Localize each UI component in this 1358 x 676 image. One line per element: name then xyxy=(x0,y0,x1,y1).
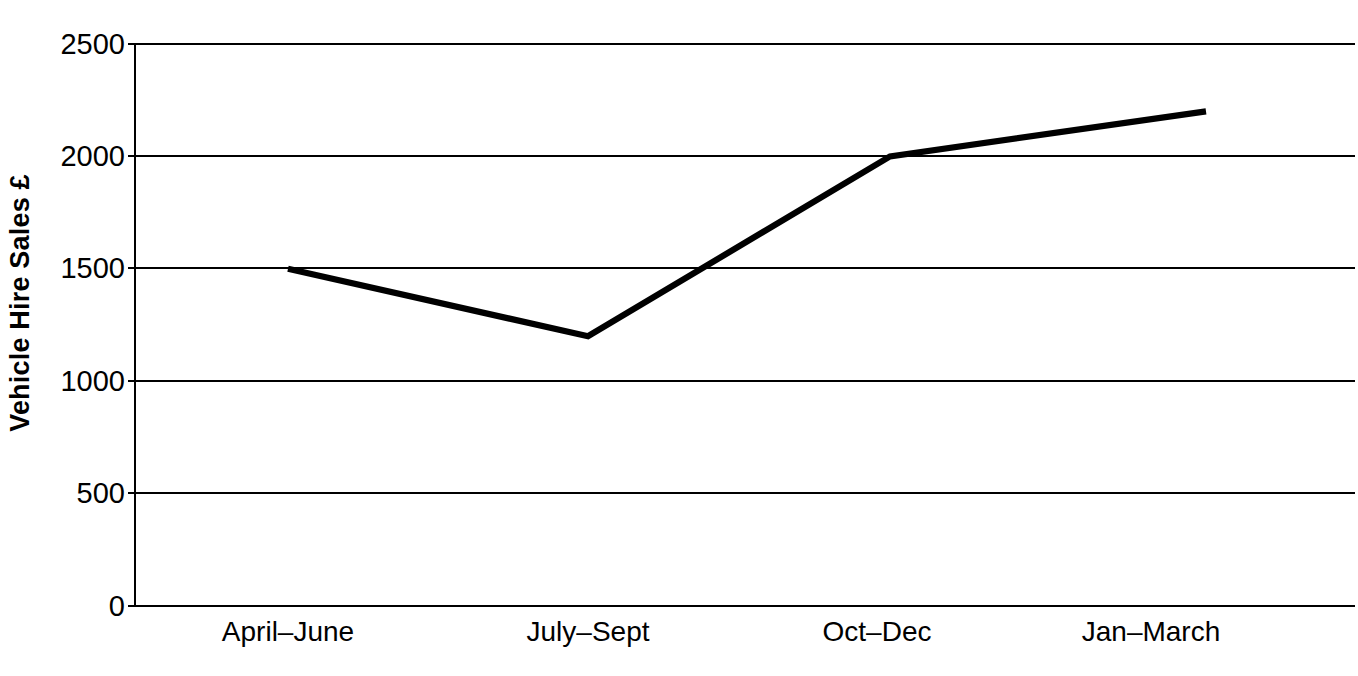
plot-area xyxy=(0,0,1358,676)
line-chart: Vehicle Hire Sales £ 2500 2000 1500 1000… xyxy=(0,0,1358,676)
gridlines xyxy=(135,44,1355,493)
data-series-line xyxy=(288,111,1206,336)
